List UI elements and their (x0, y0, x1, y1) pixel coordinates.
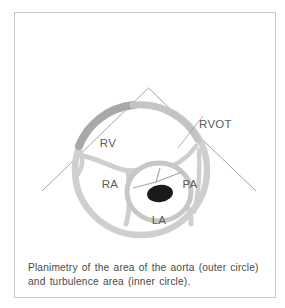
caption-line-2: and turbulence area (inner circle). (28, 275, 260, 289)
aortic-root-outer-circle (127, 163, 191, 221)
label-rv: RV (100, 137, 116, 149)
caption-line-1: Planimetry of the area of the aorta (out… (28, 261, 260, 275)
label-rvot: RVOT (199, 118, 232, 130)
label-la: LA (152, 214, 167, 226)
figure-caption: Planimetry of the area of the aorta (out… (28, 261, 260, 288)
label-pa: PA (182, 178, 197, 190)
figure-root: RV RVOT RA PA LA Planimetry of the area … (0, 0, 285, 308)
pa-rvot-wall (172, 146, 196, 166)
label-ra: RA (102, 178, 119, 190)
